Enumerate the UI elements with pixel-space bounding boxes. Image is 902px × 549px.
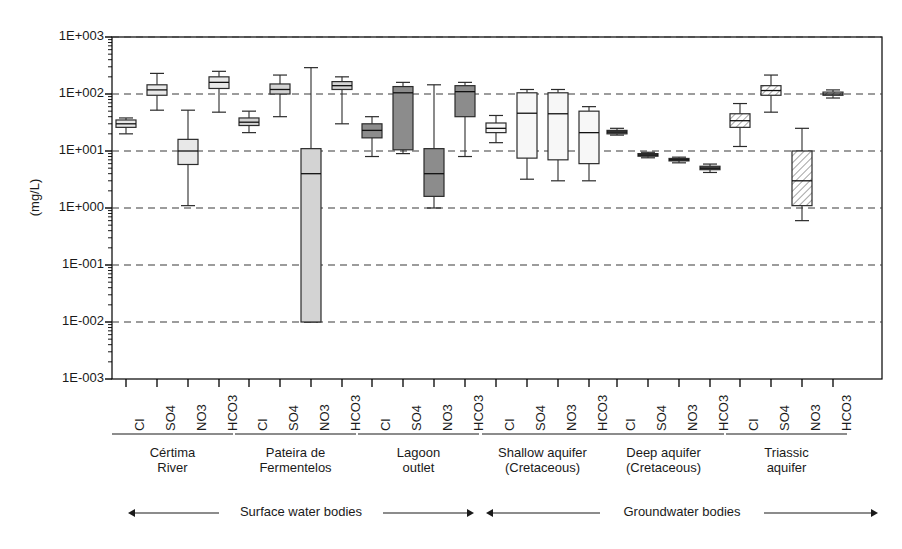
xtick-label-cl: Cl xyxy=(378,419,393,431)
box-iqr xyxy=(301,149,321,322)
xtick-label-hco3: HCO3 xyxy=(471,395,486,431)
xtick-label-hco3: HCO3 xyxy=(839,395,854,431)
box-iqr xyxy=(579,111,599,163)
xtick-label-no3: NO3 xyxy=(194,404,209,431)
group-label: Cértima River xyxy=(103,445,243,475)
xtick-label-no3: NO3 xyxy=(440,404,455,431)
ytick-label: 1E-002 xyxy=(26,313,104,328)
group-label: Deep aquifer (Cretaceous) xyxy=(594,445,734,475)
box-iqr xyxy=(455,86,475,117)
xtick-label-so4: SO4 xyxy=(777,405,792,431)
xtick-label-cl: Cl xyxy=(255,419,270,431)
xtick-label-cl: Cl xyxy=(623,419,638,431)
xtick-label-so4: SO4 xyxy=(409,405,424,431)
box-iqr xyxy=(393,87,413,150)
ytick-label: 1E+003 xyxy=(26,28,104,43)
y-axis-title: (mg/L) xyxy=(27,168,42,228)
xtick-label-no3: NO3 xyxy=(808,404,823,431)
box-plot-chart: 1E+0031E+0021E+0011E+0001E-0011E-0021E-0… xyxy=(0,0,902,549)
xtick-label-hco3: HCO3 xyxy=(225,395,240,431)
group-label: Triassic aquifer xyxy=(717,445,857,475)
xtick-label-so4: SO4 xyxy=(654,405,669,431)
ytick-label: 1E+001 xyxy=(26,142,104,157)
xtick-label-no3: NO3 xyxy=(317,404,332,431)
span-arrow-right xyxy=(467,509,474,517)
box-plot-so4-g2 xyxy=(393,82,413,153)
xtick-label-hco3: HCO3 xyxy=(595,395,610,431)
box-iqr xyxy=(178,139,198,164)
group-label: Lagoon outlet xyxy=(349,445,489,475)
xtick-label-so4: SO4 xyxy=(286,405,301,431)
xtick-label-cl: Cl xyxy=(132,419,147,431)
ytick-label: 1E+002 xyxy=(26,85,104,100)
section-label: Surface water bodies xyxy=(221,504,381,519)
xtick-label-so4: SO4 xyxy=(533,405,548,431)
span-arrow-left xyxy=(128,509,135,517)
ytick-label: 1E-003 xyxy=(26,370,104,385)
span-arrow-right xyxy=(871,509,878,517)
span-arrow-left xyxy=(486,509,493,517)
ytick-label: 1E-001 xyxy=(26,256,104,271)
xtick-label-cl: Cl xyxy=(502,419,517,431)
box-iqr xyxy=(517,93,537,158)
xtick-label-hco3: HCO3 xyxy=(716,395,731,431)
xtick-label-no3: NO3 xyxy=(685,404,700,431)
xtick-label-hco3: HCO3 xyxy=(348,395,363,431)
box-iqr xyxy=(424,149,444,197)
box-iqr xyxy=(792,151,812,206)
xtick-label-cl: Cl xyxy=(746,419,761,431)
xtick-label-no3: NO3 xyxy=(564,404,579,431)
xtick-label-so4: SO4 xyxy=(163,405,178,431)
box-iqr xyxy=(548,93,568,160)
section-label: Groundwater bodies xyxy=(602,504,762,519)
group-label: Shallow aquifer (Cretaceous) xyxy=(473,445,613,475)
group-label: Pateira de Fermentelos xyxy=(226,445,366,475)
